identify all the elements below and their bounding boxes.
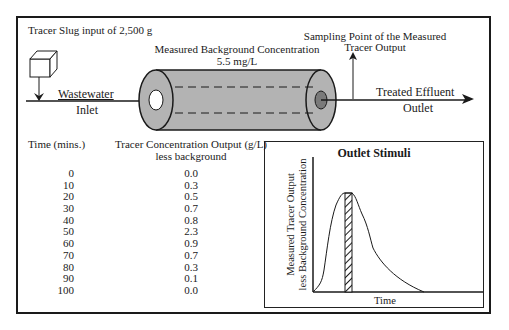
reactor-cylinder-icon <box>139 70 336 130</box>
sampling-arrow-icon <box>349 52 357 99</box>
concentration-column-header: Tracer Concentration Output (g/L) <box>106 138 276 151</box>
plot-x-axis-label: Time <box>374 295 396 306</box>
time-cell: 0 <box>24 168 74 180</box>
sampling-point-label-line2: Tracer Output <box>300 41 450 53</box>
table-rows: 00.0 100.3 200.5 300.7 400.8 502.3 600.9… <box>24 168 276 297</box>
table-row: 400.8 <box>24 215 276 227</box>
table-row: 100.3 <box>24 180 276 192</box>
tracer-input-label: Tracer Slug input of 2,500 g <box>28 24 152 36</box>
table-row: 300.7 <box>24 203 276 215</box>
wastewater-inlet-label-line2: Inlet <box>76 104 98 116</box>
time-cell: 70 <box>24 250 74 262</box>
conc-cell: 0.0 <box>106 168 276 180</box>
treated-effluent-label-line2: Outlet <box>403 102 433 114</box>
background-concentration-label: Measured Background Concentration <box>152 43 322 55</box>
concentration-column-subheader: less background <box>106 150 276 163</box>
table-row: 200.5 <box>24 191 276 203</box>
wastewater-inlet-label: Wastewater <box>58 88 114 100</box>
table-row: 502.3 <box>24 226 276 238</box>
tracer-drop-arrow-icon <box>34 77 44 101</box>
background-concentration-value: 5.5 mg/L <box>152 55 322 67</box>
table-row: 00.0 <box>24 168 276 180</box>
treated-effluent-label: Treated Effluent <box>376 86 454 98</box>
conc-cell: 0.7 <box>106 250 276 262</box>
time-cell: 100 <box>24 285 74 297</box>
outlet-arrow-icon <box>462 94 474 104</box>
table-row: 700.7 <box>24 250 276 262</box>
conc-cell: 0.7 <box>106 203 276 215</box>
conc-cell: 0.0 <box>106 285 276 297</box>
tracer-cube-icon <box>30 51 57 77</box>
table-row: 600.9 <box>24 238 276 250</box>
plot-y-axis-label-line2: less Background Concentration <box>297 157 309 292</box>
plot-y-axis-label: Measured Tracer Output <box>285 157 297 292</box>
time-column-header: Time (mins.) <box>28 138 85 151</box>
table-row: 800.3 <box>24 262 276 274</box>
table-row: 1000.0 <box>24 285 276 297</box>
time-cell: 30 <box>24 203 74 215</box>
